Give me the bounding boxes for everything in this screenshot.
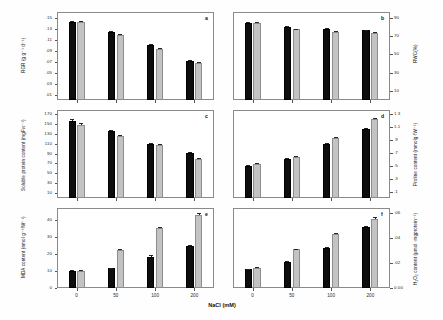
panel-a-ytick-label: .01 — [27, 92, 52, 96]
panel-e-ytick-label: 10 — [27, 269, 52, 273]
panel-e-bar-200-black — [186, 246, 193, 288]
panel-b-bar-0-black — [245, 23, 252, 100]
panel-d-bar-50-gray — [293, 157, 300, 198]
panel-d-tickmark — [390, 140, 393, 141]
panel-e-errorcap — [197, 213, 201, 214]
panel-b-bar-200-black — [362, 30, 369, 100]
panel-d-ytick-label: .1 — [394, 189, 419, 193]
panel-e-bar-0-gray — [77, 271, 84, 288]
panel-c-bar-50-black — [108, 131, 115, 198]
panel-c-errorcap — [197, 158, 201, 159]
panel-f-tickmark — [390, 263, 393, 264]
panel-f-tickmark — [390, 288, 393, 289]
panel-b-errorcap — [285, 26, 289, 27]
panel-b-bar-50-gray — [293, 29, 300, 100]
panel-a-tickmark — [55, 29, 58, 30]
panel-c-ytick-label: 30 — [27, 181, 52, 185]
panel-a-ytick-label: .03 — [27, 81, 52, 85]
panel-c-bar-200-gray — [195, 159, 202, 198]
panel-c-xtickmark — [116, 198, 117, 201]
panel-b-errorcap — [325, 28, 329, 29]
panel-a-errorcap — [149, 44, 153, 45]
panel-c-bar-0-black — [69, 121, 76, 198]
panel-c-xtickmark — [155, 198, 156, 201]
figure-canvas: .01.03.05.07.09.11.13.15RGR (g g⁻¹ d⁻¹)a… — [0, 0, 443, 320]
panel-b-tickmark — [390, 54, 393, 55]
panel-d-errorcap — [246, 165, 250, 166]
panel-c-ytick-label: 90 — [27, 151, 52, 155]
panel-a-bar-200-gray — [195, 63, 202, 100]
panel-f-bar-50-gray — [293, 249, 300, 288]
panel-e-tickmark — [55, 271, 58, 272]
panel-e-xtickmark — [155, 288, 156, 291]
panel-f-xtickmark — [253, 288, 254, 291]
panel-c-tickmark — [55, 134, 58, 135]
panel-d-errorcap — [325, 143, 329, 144]
panel-f-bar-0-gray — [253, 268, 260, 288]
panel-b-ytick-label: 90 — [394, 15, 419, 19]
panel-f-bar-50-black — [284, 262, 291, 288]
panel-f-tickmark — [390, 238, 393, 239]
panel-d-xtickmark — [292, 198, 293, 201]
panel-f-xtickmark — [331, 288, 332, 291]
panel-d-errorcap — [334, 137, 338, 138]
panel-b-ytick-label: 10 — [394, 89, 419, 93]
panel-f-tickmark — [390, 213, 393, 214]
panel-c-xtickmark — [77, 198, 78, 201]
panel-c-tickmark — [55, 144, 58, 145]
panel-f-bar-0-black — [245, 269, 252, 288]
panel-e-ytick-label: 30 — [27, 235, 52, 239]
panel-a-xtickmark — [116, 100, 117, 103]
panel-c-ytick-label: 150 — [27, 122, 52, 126]
panel-c-errorcap — [79, 123, 83, 124]
panel-e-bar-200-gray — [195, 215, 202, 288]
panel-a-errorcap — [197, 62, 201, 63]
panel-e-tickmark — [55, 237, 58, 238]
panel-e-ylabel: MDA content (nmol g⁻¹fW⁻¹) — [21, 216, 26, 278]
panel-f-bar-100-black — [323, 248, 330, 288]
panel-c-ytick-label: 70 — [27, 161, 52, 165]
panel-d-tickmark — [390, 127, 393, 128]
panel-f-ylabel: H₂O₂ content (µmol ·mgprotein⁻¹) — [413, 213, 418, 285]
panel-b-ytick-label: 70 — [394, 34, 419, 38]
panel-c-errorcap — [118, 135, 122, 136]
panel-d-errorcap — [255, 163, 259, 164]
panel-d-bar-50-black — [284, 159, 291, 198]
panel-d-tickmark — [390, 153, 393, 154]
panel-d-tickmark — [390, 192, 393, 193]
panel-c-xtickmark — [194, 198, 195, 201]
panel-b-bar-100-black — [323, 29, 330, 101]
panel-f-bar-100-gray — [332, 234, 339, 288]
panel-a-tickmark — [55, 62, 58, 63]
panel-c-errorcap — [188, 152, 192, 153]
panel-e-errorcap — [118, 249, 122, 250]
panel-c-bar-50-gray — [117, 136, 124, 198]
panel-e-tickmark — [55, 220, 58, 221]
panel-b-errorcap — [364, 30, 368, 31]
panel-f-xtickmark — [292, 288, 293, 291]
x-axis-title: NaCl (mM) — [208, 302, 236, 308]
panel-d-bar-0-gray — [253, 164, 260, 198]
panel-label-d: d — [381, 113, 384, 119]
panel-e-xtickmark — [77, 288, 78, 291]
panel-label-a: a — [205, 15, 208, 21]
panel-e-bar-100-black — [147, 257, 154, 288]
panel-e-xtick-label: 50 — [113, 293, 118, 298]
panel-d-bar-100-gray — [332, 138, 339, 198]
panel-d-xtickmark — [370, 198, 371, 201]
panel-c-ylabel: Soluble protein content (mgFw⁻¹) — [21, 119, 26, 191]
panel-d-errorcap — [364, 128, 368, 129]
panel-b-ytick-label: 30 — [394, 70, 419, 74]
panel-a-errorcap — [79, 21, 83, 22]
panel-b-xtickmark — [370, 100, 371, 103]
panel-a-ytick-label: .15 — [27, 15, 52, 19]
panel-e-tickmark — [55, 254, 58, 255]
panel-c-ytick-label: 50 — [27, 171, 52, 175]
panel-a-tickmark — [55, 73, 58, 74]
panel-e-errorcap — [158, 227, 162, 228]
panel-a-bar-100-gray — [156, 49, 163, 100]
panel-f-xtickmark — [370, 288, 371, 291]
panel-c-tickmark — [55, 183, 58, 184]
panel-a-errorcap — [118, 34, 122, 35]
panel-c-errorcap — [70, 119, 74, 120]
